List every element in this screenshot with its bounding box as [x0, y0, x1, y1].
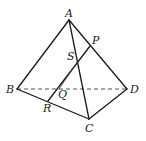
- label-b: B: [5, 83, 14, 96]
- label-c: C: [85, 122, 94, 135]
- label-q: Q: [58, 88, 67, 101]
- diagram-svg: A B C D P S Q R: [0, 0, 146, 141]
- segment-sq: [59, 60, 79, 89]
- tetrahedron-diagram: A B C D P S Q R: [0, 0, 146, 141]
- edge-cd: [89, 89, 127, 119]
- label-r: R: [42, 102, 51, 115]
- edge-ab: [17, 20, 69, 89]
- label-s: S: [67, 50, 75, 63]
- edge-ad: [69, 20, 127, 89]
- label-d: D: [129, 83, 139, 96]
- label-p: P: [91, 34, 100, 47]
- label-a: A: [64, 7, 73, 20]
